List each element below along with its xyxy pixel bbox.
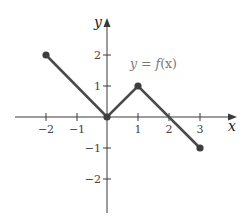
y-axis-arrow-icon (104, 18, 111, 27)
x-tick-label: 1 (135, 123, 142, 136)
vertex-marker (103, 113, 110, 120)
function-graph: −2 −1 1 2 3 2 1 −1 −2 x y y = f(x) (0, 0, 249, 223)
x-axis-label: x (228, 118, 236, 134)
function-label: y = f(x) (129, 56, 177, 71)
y-tick-label: 1 (94, 80, 101, 93)
y-axis-label: y (93, 14, 103, 30)
x-tick-label: −1 (69, 123, 85, 136)
endpoint-marker (196, 144, 203, 151)
y-tick-label: 2 (94, 49, 101, 62)
y-tick-label: −2 (85, 173, 101, 186)
x-tick-label: 3 (197, 123, 204, 136)
x-tick-label: 2 (166, 123, 173, 136)
x-tick-label: −2 (38, 123, 54, 136)
y-tick-label: −1 (85, 142, 101, 155)
vertex-marker (134, 82, 141, 89)
endpoint-marker (42, 51, 49, 58)
